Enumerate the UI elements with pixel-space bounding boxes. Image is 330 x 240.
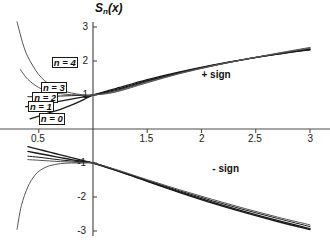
y-tick-label: 1: [83, 90, 89, 100]
y-axis-title-base: S: [95, 1, 103, 15]
curve-label-n4: n = 4: [52, 57, 78, 69]
y-axis-title: Sn(x): [95, 2, 123, 16]
x-tick-label: 0.5: [31, 134, 45, 144]
x-tick-label: 2: [199, 134, 205, 144]
y-tick-label: -2: [77, 192, 86, 202]
plus-sign-label: + sign: [202, 70, 231, 80]
y-tick-label: -1: [77, 158, 86, 168]
y-axis-title-argument: (x): [108, 1, 123, 15]
curve-label-n0: n = 0: [39, 113, 65, 125]
x-tick-label: 3: [307, 134, 313, 144]
x-tick-label: 2.5: [248, 134, 262, 144]
y-tick-label: 3: [83, 22, 89, 32]
y-tick-label: 2: [83, 56, 89, 66]
y-tick-label: -3: [77, 226, 86, 236]
x-tick-label: 1.5: [139, 134, 153, 144]
minus-sign-label: - sign: [212, 164, 239, 174]
curve-label-n1: n = 1: [28, 101, 54, 113]
